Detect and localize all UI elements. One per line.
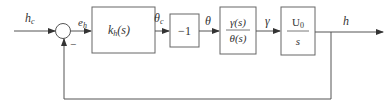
gamma-label: γ — [265, 14, 270, 28]
gain-label: −1 — [178, 24, 191, 38]
controller-label: kh(s) — [108, 23, 130, 38]
output-label: h — [343, 14, 349, 28]
feedback-sign: − — [70, 38, 76, 50]
transfer-numerator: γ(s) — [230, 16, 246, 29]
transfer-denominator: θ(s) — [229, 32, 246, 45]
transfer-block — [220, 7, 256, 54]
error-label: eh — [78, 16, 87, 30]
block-diagram: hc − eh kh(s) θc −1 θ γ(s) θ(s) γ U0 s h — [0, 0, 389, 107]
summing-junction — [56, 24, 71, 39]
integrator-denominator: s — [296, 35, 300, 47]
theta-cmd-label: θc — [154, 11, 164, 26]
input-label: hc — [25, 11, 35, 26]
theta-label: θ — [205, 14, 211, 28]
